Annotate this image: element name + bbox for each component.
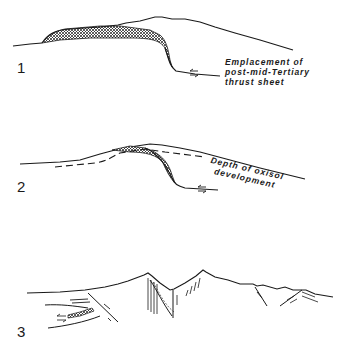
oxisol-depth-line xyxy=(55,149,205,167)
thrust-sheet-hatched xyxy=(42,26,172,67)
stage-3-profile xyxy=(27,270,333,328)
stage-1-label-line-3: thrust sheet xyxy=(225,77,310,87)
stage-3-number: 3 xyxy=(17,323,25,340)
stage-1-label-line-1: Emplacement of xyxy=(225,57,310,67)
cross-section-diagram xyxy=(0,0,347,350)
stage-1-label: Emplacement of post-mid-Tertiary thrust … xyxy=(225,57,310,87)
stage-1-label-line-2: post-mid-Tertiary xyxy=(225,67,310,77)
stage-2-number: 2 xyxy=(17,178,25,195)
stage-1-number: 1 xyxy=(17,59,25,76)
